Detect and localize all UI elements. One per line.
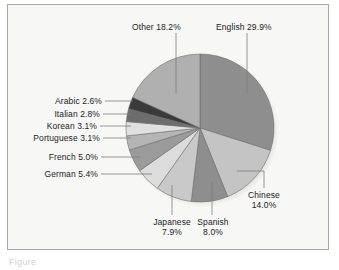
pie-label-italian: Italian 2.8% <box>18 109 100 119</box>
pie-label-chinese-line1: Chinese <box>238 190 290 200</box>
pie-label-arabic: Arabic 2.6% <box>18 96 102 106</box>
pie-label-spanish-line1: Spanish <box>188 217 238 227</box>
pie-label-french: French 5.0% <box>18 152 98 162</box>
figure-caption: Figure <box>9 257 36 267</box>
pie-label-chinese-line2: 14.0% <box>238 200 290 210</box>
pie-slice-group <box>126 54 274 202</box>
pie-label-chinese: Chinese 14.0% <box>238 190 290 210</box>
pie-label-spanish-line2: 8.0% <box>188 227 238 237</box>
pie-label-english: English 29.9% <box>216 22 272 32</box>
pie-label-portuguese: Portuguese 3.1% <box>8 133 100 143</box>
figure-page: Other 18.2% English 29.9% Arabic 2.6% It… <box>0 0 339 270</box>
pie-label-spanish: Spanish 8.0% <box>188 217 238 237</box>
pie-label-other: Other 18.2% <box>132 22 181 32</box>
pie-label-korean: Korean 3.1% <box>14 121 97 131</box>
pie-label-german: German 5.4% <box>14 169 98 179</box>
